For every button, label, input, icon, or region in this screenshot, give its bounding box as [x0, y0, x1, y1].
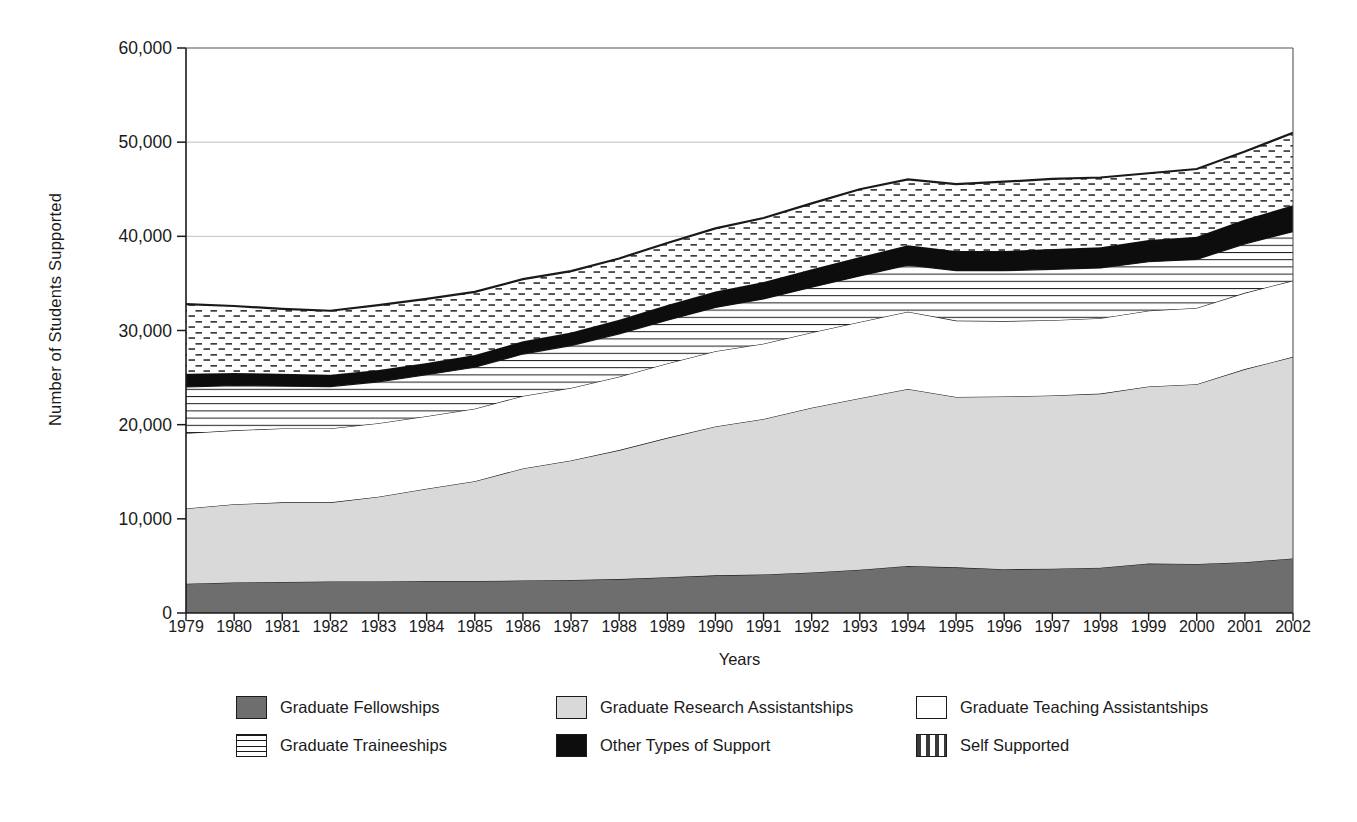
chart-legend: Graduate FellowshipsGraduate Research As… [236, 688, 1296, 778]
legend-label: Graduate Fellowships [280, 698, 440, 717]
x-tick-label: 1987 [544, 618, 598, 636]
legend-swatch-other-support [556, 734, 587, 757]
x-tick-label: 1986 [496, 618, 550, 636]
x-tick-label: 1996 [977, 618, 1031, 636]
x-tick-label: 1997 [1025, 618, 1079, 636]
legend-label: Self Supported [960, 736, 1069, 755]
x-tick-label: 1979 [159, 618, 213, 636]
legend-swatch-fellowships [236, 696, 267, 719]
x-tick-label: 1999 [1122, 618, 1176, 636]
legend-row: Graduate TraineeshipsOther Types of Supp… [236, 726, 1296, 764]
x-tick-label: 1981 [255, 618, 309, 636]
legend-item[interactable]: Graduate Traineeships [236, 726, 556, 764]
legend-swatch-traineeships [236, 734, 267, 757]
x-tick-label: 2001 [1218, 618, 1272, 636]
x-tick-label: 2002 [1266, 618, 1320, 636]
x-tick-label: 1982 [303, 618, 357, 636]
legend-item[interactable]: Graduate Research Assistantships [556, 688, 916, 726]
legend-label: Graduate Teaching Assistantships [960, 698, 1208, 717]
legend-label: Graduate Traineeships [280, 736, 447, 755]
x-tick-label: 1993 [833, 618, 887, 636]
legend-item[interactable]: Other Types of Support [556, 726, 916, 764]
legend-item[interactable]: Self Supported [916, 726, 1296, 764]
x-tick-label: 1991 [737, 618, 791, 636]
legend-label: Other Types of Support [600, 736, 770, 755]
x-tick-label: 1989 [640, 618, 694, 636]
x-tick-label: 1980 [207, 618, 261, 636]
x-tick-label: 1995 [929, 618, 983, 636]
chart-figure: Number of Students Supported 010,00020,0… [0, 0, 1357, 822]
x-tick-label: 1992 [785, 618, 839, 636]
x-tick-label: 1985 [448, 618, 502, 636]
x-tick-label: 1988 [592, 618, 646, 636]
x-tick-label: 1990 [688, 618, 742, 636]
x-tick-label: 1994 [881, 618, 935, 636]
legend-swatch-self-supported [916, 734, 947, 757]
x-tick-label: 2000 [1170, 618, 1224, 636]
legend-item[interactable]: Graduate Fellowships [236, 688, 556, 726]
x-tick-label: 1983 [352, 618, 406, 636]
x-tick-label: 1998 [1073, 618, 1127, 636]
legend-row: Graduate FellowshipsGraduate Research As… [236, 688, 1296, 726]
legend-label: Graduate Research Assistantships [600, 698, 853, 717]
area-series-group [186, 133, 1293, 613]
legend-swatch-teaching-assistantships [916, 696, 947, 719]
x-tick-label: 1984 [400, 618, 454, 636]
legend-item[interactable]: Graduate Teaching Assistantships [916, 688, 1296, 726]
x-axis-title: Years [186, 650, 1293, 669]
legend-swatch-research-assistantships [556, 696, 587, 719]
x-axis-tick-labels: 1979198019811982198319841985198619871988… [186, 618, 1293, 644]
